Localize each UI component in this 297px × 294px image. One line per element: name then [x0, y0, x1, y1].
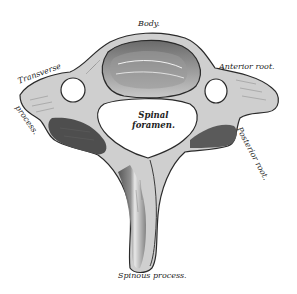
label-spinal-foramen: Spinal foramen.	[132, 111, 175, 131]
right-transverse-foramen	[205, 79, 227, 103]
label-spinal-line2: foramen.	[132, 121, 175, 131]
vertebra-illustration: Body. Anterior root. Transverse process.…	[0, 0, 297, 294]
left-transverse-foramen	[61, 78, 85, 102]
label-anterior-root: Anterior root.	[219, 63, 275, 71]
label-body: Body.	[138, 20, 160, 28]
label-spinous-process: Spinous process.	[118, 272, 187, 280]
